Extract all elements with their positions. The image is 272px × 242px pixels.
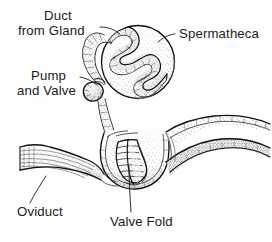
label-valve-fold: Valve Fold: [110, 214, 173, 229]
spermatheca-figure: Duct from Gland Spermatheca Pump and Val…: [0, 0, 272, 242]
label-spermatheca-text: Spermatheca: [179, 26, 260, 41]
label-spermatheca: Spermatheca: [179, 26, 260, 41]
label-pump-and-valve-line2: and Valve: [17, 83, 76, 98]
label-pump-and-valve-line1: Pump: [31, 68, 66, 83]
label-oviduct: Oviduct: [17, 204, 63, 219]
label-valve-fold-text: Valve Fold: [110, 214, 173, 229]
label-duct-from-gland-line1: Duct: [44, 8, 72, 23]
label-oviduct-text: Oviduct: [17, 204, 63, 219]
label-duct-from-gland-line2: from Gland: [18, 23, 85, 38]
anatomical-diagram: Duct from Gland Spermatheca Pump and Val…: [0, 0, 272, 242]
